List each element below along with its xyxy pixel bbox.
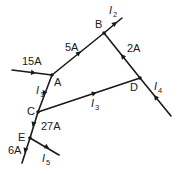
svg-text:1: 1 bbox=[40, 90, 44, 99]
node-C-dot bbox=[36, 110, 40, 114]
svg-text:5: 5 bbox=[46, 158, 50, 167]
current-I1-label: I 1 bbox=[36, 84, 44, 99]
svg-text:I: I bbox=[109, 4, 112, 16]
node-B-dot bbox=[102, 31, 106, 35]
wire-B-out-I2 bbox=[104, 18, 122, 33]
svg-text:I: I bbox=[91, 97, 94, 109]
node-B-label: B bbox=[95, 18, 102, 30]
svg-text:2: 2 bbox=[113, 10, 117, 19]
current-I4-label: I 4 bbox=[154, 80, 162, 95]
node-E-dot bbox=[28, 136, 32, 140]
current-I3-label: I 3 bbox=[91, 97, 99, 112]
current-5A-label: 5A bbox=[65, 41, 79, 53]
node-A-label: A bbox=[54, 76, 62, 88]
svg-text:3: 3 bbox=[95, 103, 99, 112]
svg-text:I: I bbox=[154, 80, 157, 92]
arrow-icon bbox=[31, 70, 37, 76]
svg-text:4: 4 bbox=[158, 86, 162, 95]
node-D-dot bbox=[138, 76, 142, 80]
current-6A-label: 6A bbox=[8, 144, 22, 156]
current-I5-label: I 5 bbox=[42, 152, 50, 167]
current-2A-label: 2A bbox=[127, 42, 141, 54]
current-I2-label: I 2 bbox=[109, 4, 117, 19]
node-C-label: C bbox=[27, 105, 35, 117]
node-E-label: E bbox=[18, 131, 25, 143]
svg-text:I: I bbox=[36, 84, 39, 96]
current-27A-label: 27A bbox=[41, 120, 61, 132]
node-D-label: D bbox=[130, 81, 138, 93]
svg-text:I: I bbox=[42, 152, 45, 164]
circuit-diagram: A B C D E 15A 5A 2A 27A 6A I 1 I 2 I 3 I… bbox=[0, 0, 180, 174]
current-15A-label: 15A bbox=[22, 55, 42, 67]
